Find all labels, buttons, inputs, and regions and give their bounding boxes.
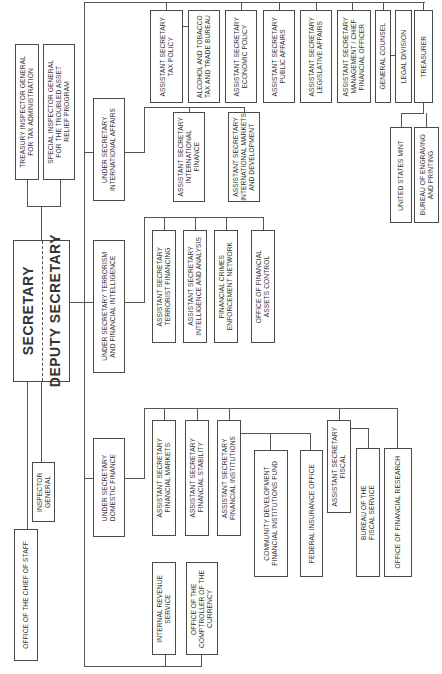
box-label: FINANCIAL CRIMES ENFORCEMENT NETWORK (218, 242, 234, 330)
connector (144, 217, 264, 218)
box-legislative-affairs: ASSISTANT SECRETARY LEGISLATIVE AFFAIRS (300, 10, 332, 103)
connector (60, 180, 61, 206)
box-label: FEDERAL INSURANCE OFFICE (308, 464, 316, 563)
box-bep: BUREAU OF ENGRAVING AND PRINTING (414, 127, 439, 223)
box-label: OFFICE OF THE CHIEF OF STAFF (22, 541, 30, 649)
connector (197, 408, 198, 420)
box-label: ASSISTANT SECRETARY INTERNATIONAL FINANC… (177, 117, 201, 196)
box-label: OFFICE OF THE COMPTROLLER OF THE CURRENC… (190, 570, 214, 648)
box-ofac: OFFICE OF FINANCIAL ASSETS CONTROL (251, 230, 275, 343)
box-legal-division: LEGAL DIVISION (395, 10, 412, 103)
org-chart: TREASURY INSPECTOR GENERAL FOR TAX ADMIN… (0, 0, 442, 674)
box-label: ASSISTANT SECRETARY ECONOMIC POLICY (233, 17, 249, 96)
connector (423, 2, 424, 10)
box-label: ALCOHOL AND TOBACCO TAX AND TRADE BUREAU (196, 15, 212, 98)
box-occ: OFFICE OF THE COMPTROLLER OF THE CURRENC… (186, 562, 218, 655)
box-label: ASSISTANT SECRETARY FINANCIAL STABILITY (189, 438, 205, 517)
connector (351, 428, 368, 429)
box-cdfi-fund: COMMUNITY DEVELOPMENT FINANCIAL INSTITUT… (254, 450, 288, 577)
box-economic-policy: ASSISTANT SECRETARY ECONOMIC POLICY (225, 10, 257, 103)
deputy-secretary-label: DEPUTY SECRETARY (46, 234, 64, 387)
box-label: TREASURY INSPECTOR GENERAL FOR TAX ADMIN… (19, 56, 35, 168)
connector (144, 217, 145, 303)
connector (195, 217, 196, 230)
box-label: BUREAU OF THE FISCAL SERVICE (360, 485, 376, 540)
connector (352, 2, 353, 10)
box-label: SPECIAL INSPECTOR GENERAL FOR THE TROUBL… (47, 60, 71, 164)
box-under-secretary-domestic: UNDER SECRETARY DOMESTIC FINANCE (93, 438, 125, 537)
box-label: ASSISTANT SECRETARY FINANCIAL MARKETS (156, 438, 172, 517)
box-label: TREASURER (420, 36, 428, 78)
box-label: ASSISTANT SECRETARY FISCAL (331, 427, 347, 506)
connector (241, 2, 242, 10)
box-label: ASSISTANT SECRETARY TAX POLICY (159, 17, 175, 96)
box-label: INTERNAL REVENUE SERVICE (156, 575, 172, 643)
box-fincen: FINANCIAL CRIMES ENFORCEMENT NETWORK (214, 230, 238, 343)
box-label: UNITED STATES MINT (397, 140, 405, 211)
box-label: ASSISTANT SECRETARY TERRORIST FINANCING (156, 247, 172, 326)
box-financial-institutions: ASSISTANT SECRETARY FINANCIAL INSTITUTIO… (217, 420, 241, 536)
connector (41, 382, 42, 462)
box-office-financial-research: OFFICE OF FINANCIAL RESEARCH (384, 448, 412, 577)
connector (144, 408, 397, 409)
box-label: ASSISTANT SECRETARY FINANCIAL INSTITUTIO… (221, 436, 237, 520)
box-under-secretary-terrorism: UNDER SECRETARY TERRORISM AND FINANCIAL … (93, 240, 125, 373)
connector (310, 433, 311, 450)
box-label: ASSISTANT SECRETARY MANAGEMENT / CHIEF F… (342, 17, 366, 96)
connector (125, 302, 144, 303)
connector (401, 113, 424, 114)
box-label: BUREAU OF ENGRAVING AND PRINTING (419, 134, 435, 215)
box-tax-policy: ASSISTANT SECRETARY TAX POLICY (150, 10, 183, 103)
box-financial-markets: ASSISTANT SECRETARY FINANCIAL MARKETS (152, 420, 176, 536)
connector (27, 180, 28, 206)
box-label: GENERAL COUNSEL (379, 23, 387, 89)
connector (84, 2, 425, 3)
connector (383, 2, 384, 10)
box-international-markets: ASSISTANT SECRETARY INTERNATIONAL MARKET… (228, 112, 260, 202)
box-label: LEGAL DIVISION (400, 30, 408, 83)
connector (27, 206, 61, 207)
connector (125, 152, 144, 153)
connector (144, 408, 145, 479)
connector (229, 408, 230, 420)
connector (397, 408, 398, 448)
box-secretary: SECRETARY DEPUTY SECRETARY (13, 240, 70, 382)
box-management-cfo: ASSISTANT SECRETARY MANAGEMENT / CHIEF F… (337, 10, 371, 103)
connector (144, 107, 244, 108)
box-sigtarp: SPECIAL INSPECTOR GENERAL FOR THE TROUBL… (43, 44, 75, 180)
connector (164, 217, 165, 230)
connector (241, 433, 311, 434)
connector (144, 107, 145, 153)
connector (164, 408, 165, 420)
connector (165, 655, 166, 666)
box-inspector-general: INSPECTOR GENERAL (32, 462, 55, 522)
box-terrorist-financing: ASSISTANT SECRETARY TERRORIST FINANCING (152, 230, 176, 343)
connector (279, 2, 280, 10)
box-label: ASSISTANT SECRETARY INTERNATIONAL MARKET… (232, 113, 256, 201)
box-ttb: ALCOHOL AND TOBACCO TAX AND TRADE BUREAU (188, 10, 220, 103)
connector (226, 217, 227, 230)
connector (263, 217, 264, 230)
box-general-counsel: GENERAL COUNSEL (375, 10, 391, 103)
box-treasurer: TREASURER (414, 10, 433, 103)
connector (27, 382, 28, 529)
connector (201, 655, 202, 666)
connector (84, 2, 85, 666)
box-federal-insurance-office: FEDERAL INSURANCE OFFICE (300, 450, 323, 577)
box-label: OFFICE OF FINANCIAL ASSETS CONTROL (255, 250, 271, 323)
connector (426, 113, 427, 127)
connector (270, 433, 271, 450)
connector (401, 113, 402, 127)
box-label: UNDER SECRETARY TERRORISM AND FINANCIAL … (101, 252, 117, 361)
box-under-secretary-international: UNDER SECRETARY INTERNATIONAL AFFAIRS (93, 98, 125, 201)
box-irs: INTERNAL REVENUE SERVICE (152, 562, 176, 655)
box-label: OFFICE OF FINANCIAL RESEARCH (394, 456, 402, 568)
box-label: ASSISTANT SECRETARY PUBLIC AFFAIRS (271, 17, 287, 96)
connector (368, 428, 369, 448)
box-intelligence-analysis: ASSISTANT SECRETARY INTELLIGENCE AND ANA… (183, 230, 207, 343)
box-international-finance: ASSISTANT SECRETARY INTERNATIONAL FINANC… (173, 112, 205, 202)
secretary-label: SECRETARY (19, 266, 37, 355)
box-label: ASSISTANT SECRETARY INTELLIGENCE AND ANA… (187, 237, 203, 336)
connector (339, 408, 340, 420)
connector (166, 2, 167, 10)
